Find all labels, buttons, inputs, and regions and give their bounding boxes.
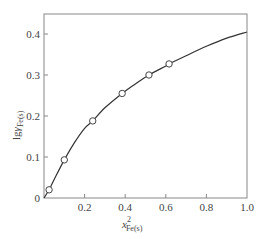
fitted-curve-line xyxy=(44,32,247,198)
data-point-marker xyxy=(61,157,67,163)
y-tick-label: 0.4 xyxy=(26,28,40,40)
chart: 00.10.20.30.4 0.20.40.60.81.0 lgγFe(s) x… xyxy=(0,0,269,239)
y-tick-label: 0.3 xyxy=(26,69,40,81)
x-tick-label: 0.6 xyxy=(159,201,173,213)
data-point-marker xyxy=(119,90,125,96)
x-axis-ticks: 0.20.40.60.81.0 xyxy=(78,194,255,213)
y-axis-ticks: 00.10.20.30.4 xyxy=(26,28,48,204)
y-axis-label: lgγFe(s) xyxy=(10,110,25,140)
x-axis-label: x2Fe(s) xyxy=(121,215,143,233)
y-tick-label: 0.2 xyxy=(26,110,40,122)
data-point-marker xyxy=(146,72,152,78)
y-tick-label: 0.1 xyxy=(26,151,40,163)
x-tick-label: 0.2 xyxy=(78,201,92,213)
data-point-marker xyxy=(46,187,52,193)
x-tick-label: 0.8 xyxy=(200,201,214,213)
data-point-marker xyxy=(90,118,96,124)
x-tick-label: 0.4 xyxy=(118,201,132,213)
data-point-markers xyxy=(46,61,172,193)
x-tick-label: 1.0 xyxy=(240,201,254,213)
data-point-marker xyxy=(166,61,172,67)
y-tick-label: 0 xyxy=(35,192,41,204)
